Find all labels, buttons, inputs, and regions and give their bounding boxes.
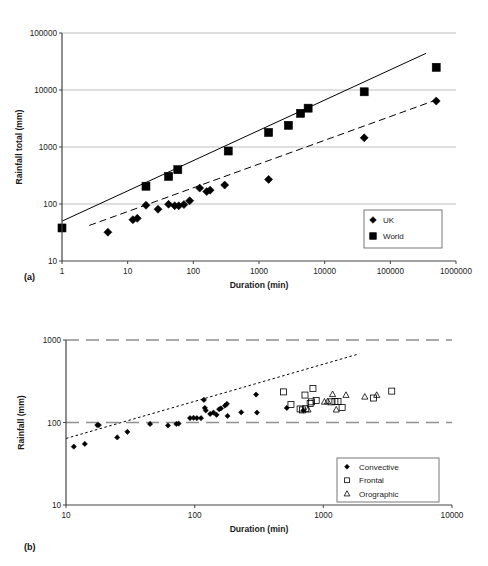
chart-b-canvas: 10100100010100100010000Duration (min)Rai… — [0, 292, 488, 566]
data-point — [239, 410, 244, 415]
data-point — [253, 392, 258, 397]
legend-label-orographic: Orographic — [359, 490, 399, 499]
x-axis-label: Duration (min) — [230, 524, 289, 534]
data-point — [360, 88, 368, 96]
data-point — [265, 175, 273, 183]
y-tick-label: 100000 — [30, 29, 58, 38]
x-tick-label: 1000000 — [440, 267, 472, 276]
y-tick-label: 100 — [47, 419, 61, 428]
legend-label-convective: Convective — [359, 463, 399, 472]
x-tick-label: 100 — [186, 267, 200, 276]
trendline-world-envelope — [62, 53, 426, 221]
chart-panel-b: 10100100010100100010000Duration (min)Rai… — [0, 292, 488, 566]
y-tick-label: 1000 — [39, 143, 58, 152]
data-point — [362, 394, 368, 400]
trendline-uk-envelope — [89, 100, 436, 226]
data-point — [71, 444, 76, 449]
chart-a-canvas: 1010010001000010000011010010001000010000… — [0, 0, 488, 292]
data-point — [284, 121, 292, 129]
data-point — [288, 402, 294, 408]
data-point — [297, 109, 305, 117]
data-point — [333, 406, 339, 412]
series-convective — [71, 392, 306, 449]
data-point — [198, 416, 203, 421]
data-point — [370, 395, 376, 401]
data-point — [142, 182, 150, 190]
data-point — [165, 172, 173, 180]
y-tick-label: 10 — [52, 501, 62, 510]
series-world — [58, 63, 440, 232]
panel-a-tag: (a) — [24, 272, 35, 282]
data-point — [196, 184, 204, 192]
x-axis-label: Duration (min) — [230, 280, 289, 290]
x-tick-label: 1000 — [314, 511, 333, 520]
legend-label-uk: UK — [383, 216, 395, 225]
legend-marker-world — [370, 233, 377, 240]
x-tick-label: 10 — [61, 511, 71, 520]
x-tick-label: 10000 — [441, 511, 464, 520]
data-point — [165, 200, 173, 208]
data-point — [313, 397, 319, 403]
figure-rainfall-duration: 1010010001000010000011010010001000010000… — [0, 0, 488, 566]
x-tick-label: 10000 — [313, 267, 336, 276]
legend-label-world: World — [383, 232, 404, 241]
data-point — [125, 429, 130, 434]
panel-b-tag: (b) — [24, 542, 36, 552]
data-point — [142, 201, 150, 209]
data-point — [343, 392, 349, 398]
data-point — [329, 391, 335, 397]
legend-box — [364, 210, 442, 248]
data-point — [221, 181, 229, 189]
data-point — [304, 104, 312, 112]
x-tick-label: 10 — [123, 267, 133, 276]
y-tick-label: 10 — [48, 257, 58, 266]
trendline-upper-envelope — [66, 354, 359, 439]
data-point — [165, 423, 170, 428]
data-point — [310, 386, 316, 392]
data-point — [82, 441, 87, 446]
data-point — [225, 413, 230, 418]
data-point — [432, 63, 440, 71]
data-point — [174, 166, 182, 174]
chart-panel-a: 1010010001000010000011010010001000010000… — [0, 0, 488, 292]
data-point — [309, 399, 315, 405]
y-axis-label: Rainfall total (mm) — [14, 109, 24, 184]
x-tick-label: 100000 — [377, 267, 405, 276]
data-point — [432, 97, 440, 105]
data-point — [265, 128, 273, 136]
y-tick-label: 100 — [43, 200, 57, 209]
data-point — [302, 392, 308, 398]
x-tick-label: 1000 — [250, 267, 269, 276]
data-point — [224, 147, 232, 155]
data-point — [389, 388, 395, 394]
data-point — [284, 405, 289, 410]
x-tick-label: 100 — [188, 511, 202, 520]
data-point — [154, 205, 162, 213]
data-point — [360, 134, 368, 142]
data-point — [104, 228, 112, 236]
data-point — [280, 389, 286, 395]
y-axis-label: Rainfall (mm) — [16, 395, 26, 450]
y-tick-label: 10000 — [34, 86, 57, 95]
series-orographic — [305, 391, 380, 412]
x-tick-label: 1 — [60, 267, 65, 276]
legend-label-frontal: Frontal — [359, 476, 384, 485]
y-tick-label: 1000 — [43, 336, 62, 345]
data-point — [339, 404, 345, 410]
data-point — [115, 435, 120, 440]
data-point — [254, 410, 259, 415]
